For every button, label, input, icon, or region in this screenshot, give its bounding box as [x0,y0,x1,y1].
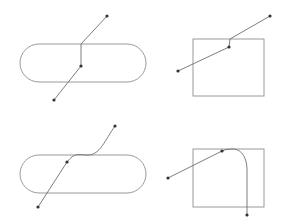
waypoint-handle[interactable] [79,64,82,67]
stadium-shape[interactable] [20,44,146,82]
endpoint-handle[interactable] [166,176,169,179]
endpoint-handle[interactable] [52,98,55,101]
waypoint-handle[interactable] [65,160,68,163]
connector-edge[interactable] [178,16,270,71]
endpoint-handle[interactable] [105,14,108,17]
stadium-shape[interactable] [20,155,146,193]
panel-top-left [20,14,146,101]
endpoint-handle[interactable] [113,124,116,127]
panel-bottom-right [166,149,264,217]
endpoint-handle[interactable] [245,213,248,216]
waypoint-handle[interactable] [220,149,223,152]
connector-edge[interactable] [168,149,247,215]
endpoint-handle[interactable] [176,69,179,72]
waypoint-handle[interactable] [227,45,230,48]
connector-edge[interactable] [54,16,107,100]
endpoint-handle[interactable] [268,14,271,17]
endpoint-handle[interactable] [36,205,39,208]
panel-bottom-left [20,124,146,208]
diagram-canvas [0,0,281,224]
panel-top-right [176,14,271,96]
connector-edge[interactable] [38,126,115,207]
rectangle-shape[interactable] [193,149,264,207]
